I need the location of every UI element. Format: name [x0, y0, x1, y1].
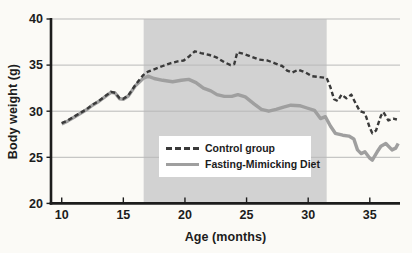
x-tick-label-15: 15 [116, 208, 130, 222]
y-tick-label-40: 40 [29, 12, 43, 26]
legend-label-fmd: Fasting-Mimicking Diet [205, 158, 320, 170]
fmd-solid-line-swatch [166, 163, 199, 166]
y-tick-label-25: 25 [29, 151, 43, 165]
x-axis-title: Age (months) [51, 230, 400, 244]
y-axis-title: Body weight (g) [6, 27, 21, 197]
chart-figure: 1015202530352025303540 Body weight (g) A… [0, 0, 412, 253]
x-tick-label-10: 10 [55, 208, 69, 222]
x-tick-label-30: 30 [301, 208, 315, 222]
control-dashed-line-swatch [166, 147, 199, 150]
x-tick-label-35: 35 [363, 208, 377, 222]
y-tick-label-30: 30 [29, 105, 43, 119]
x-tick-label-20: 20 [178, 208, 192, 222]
y-tick-label-20: 20 [29, 197, 43, 211]
legend-label-control: Control group [205, 142, 275, 154]
chart-canvas: 1015202530352025303540 [0, 0, 412, 253]
legend-item-control: Control group [166, 142, 305, 154]
x-tick-label-25: 25 [240, 208, 254, 222]
legend: Control group Fasting-Mimicking Diet [159, 136, 311, 177]
legend-item-fmd: Fasting-Mimicking Diet [166, 158, 305, 170]
y-tick-label-35: 35 [29, 58, 43, 72]
